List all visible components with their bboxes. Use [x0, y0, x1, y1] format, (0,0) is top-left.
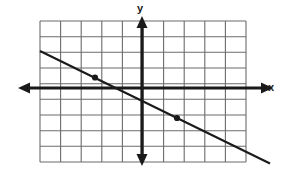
coordinate-grid-figure: x y — [0, 0, 287, 169]
graph-canvas — [0, 0, 287, 169]
y-axis-label: y — [137, 3, 143, 14]
x-axis-label: x — [268, 82, 274, 93]
x-axis-arrow-left-icon — [18, 83, 30, 94]
data-point-marker — [92, 74, 98, 80]
data-point-marker — [174, 115, 180, 121]
